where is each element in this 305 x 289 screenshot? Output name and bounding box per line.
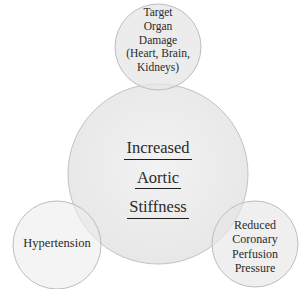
center-node-line: Stiffness bbox=[108, 199, 208, 219]
top-node-line: Kidneys) bbox=[118, 61, 198, 75]
right-node-line: Pressure bbox=[222, 261, 288, 275]
top-node-line: Target bbox=[118, 6, 198, 20]
top-node-line: (Heart, Brain, bbox=[118, 47, 198, 61]
top-node-label: Target Organ Damage (Heart, Brain, Kidne… bbox=[118, 6, 198, 75]
left-node-line: Hypertension bbox=[15, 236, 99, 251]
right-node-line: Perfusion bbox=[222, 247, 288, 261]
top-node-line: Organ bbox=[118, 20, 198, 34]
right-node-line: Coronary bbox=[222, 232, 288, 246]
top-node-line: Damage bbox=[118, 34, 198, 48]
right-node-label: Reduced Coronary Perfusion Pressure bbox=[222, 218, 288, 276]
center-node-line: Increased bbox=[108, 140, 208, 160]
center-node-line: Aortic bbox=[108, 170, 208, 190]
center-node-label: Increased Aortic Stiffness bbox=[108, 140, 208, 229]
right-node-line: Reduced bbox=[222, 218, 288, 232]
left-node-label: Hypertension bbox=[15, 236, 99, 251]
